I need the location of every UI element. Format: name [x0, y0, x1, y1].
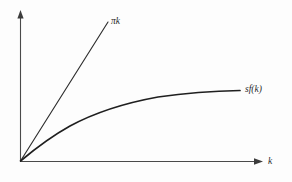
production-function-diagram: πk sf(k) k — [0, 0, 292, 182]
sf-k-label: sf(k) — [245, 84, 262, 95]
y-axis-arrowhead-icon — [17, 10, 23, 19]
figure-canvas: πk sf(k) k — [0, 0, 292, 182]
x-axis-arrowhead-icon — [254, 158, 263, 164]
x-axis-label: k — [268, 156, 273, 166]
sf-k-curve — [21, 91, 241, 162]
pi-k-label: πk — [111, 16, 121, 26]
pi-k-line — [21, 22, 109, 161]
